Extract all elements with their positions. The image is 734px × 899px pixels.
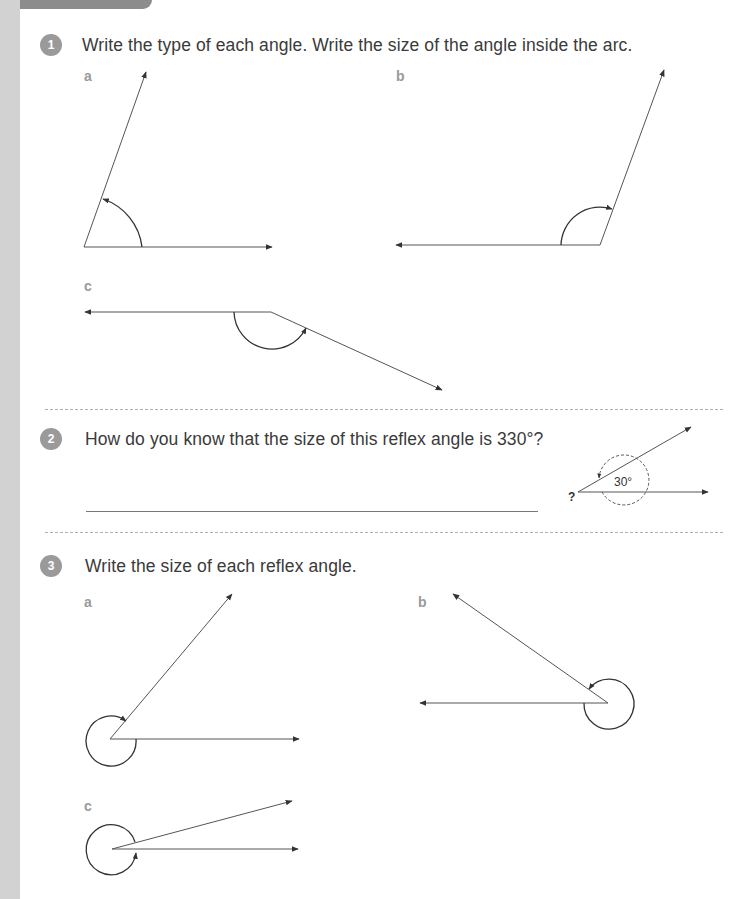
angle-diagrams: 30° ? (0, 0, 734, 899)
angle-diagram-2 (578, 427, 708, 505)
angle-diagram-3c (86, 801, 298, 875)
angle-diagram-3a (86, 594, 299, 766)
angle-diagram-3b (420, 594, 634, 729)
unknown-angle-marker: ? (568, 490, 575, 504)
known-angle-label: 30° (614, 475, 632, 489)
angle-diagram-1c (85, 312, 442, 390)
angle-diagram-1b (396, 70, 664, 245)
angle-diagram-1a (84, 72, 272, 247)
